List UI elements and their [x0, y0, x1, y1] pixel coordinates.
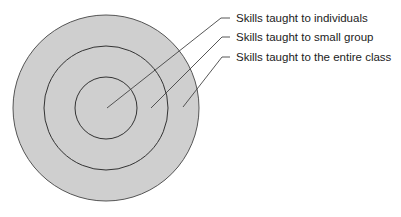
outer-circle-entire-class [13, 15, 199, 201]
label-small-group: Skills taught to small group [236, 30, 373, 44]
label-entire-class: Skills taught to the entire class [236, 50, 391, 64]
label-individuals: Skills taught to individuals [236, 11, 368, 25]
